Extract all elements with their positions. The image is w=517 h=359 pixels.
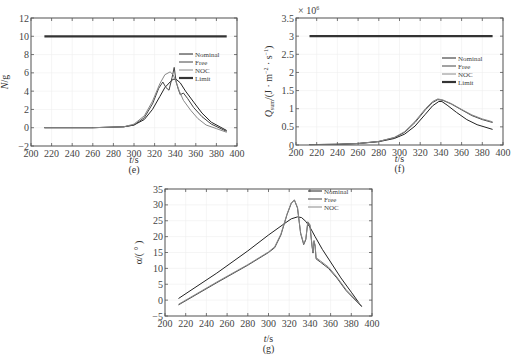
legend-label: Free [324,196,336,204]
y-tick-label: 10 [19,31,29,42]
x-tick-label: 380 [344,318,359,329]
x-tick-label: 260 [351,147,366,158]
y-tick-label: 1 [289,103,294,114]
y-tick-label: 12 [19,13,29,24]
legend-label: Limit [458,79,474,87]
x-tick-label: 400 [496,147,511,158]
x-tick-label: 280 [371,147,386,158]
y-tick-label: 6 [24,67,29,78]
legend-label: Nominal [195,51,220,59]
series-free-line [310,100,493,145]
chart-f-heat-flux: 20022024026028030032034036038040000.511.… [263,5,511,175]
x-tick-label: 400 [365,318,380,329]
figure-canvas: 200220240260280300320340360380400−202468… [0,0,517,359]
x-tick-label: 280 [106,148,121,159]
y-tick-label: −2 [18,141,29,152]
scale-multiplier-label: × 106 [298,5,319,16]
x-tick-label: 240 [330,147,345,158]
y-tick-label: 0 [158,295,163,306]
chart-e-load-factor: 200220240260280300320340360380400−202468… [0,13,245,177]
legend-label: Limit [195,75,211,83]
x-tick-label: 340 [433,147,448,158]
y-tick-label: 3.5 [282,13,295,24]
x-tick-label: 240 [199,318,214,329]
legend: NominalFreeNOC [308,188,349,212]
legend: NominalFreeNOCLimit [179,51,220,83]
y-axis-label: α/( ° ) [133,241,145,265]
y-tick-label: 30 [153,199,163,210]
legend-label: NOC [458,71,473,79]
x-tick-label: 340 [168,148,183,159]
series-nominal-line [179,217,362,307]
x-tick-label: 220 [44,148,59,159]
y-tick-label: 2.5 [282,49,295,60]
x-tick-label: 380 [475,147,490,158]
y-tick-label: 3 [289,31,294,42]
legend-label: Free [458,63,470,71]
x-tick-label: 320 [147,148,162,159]
x-tick-label: 320 [413,147,428,158]
x-tick-label: 320 [282,318,297,329]
x-tick-label: 400 [230,148,245,159]
x-tick-label: 360 [323,318,338,329]
x-tick-label: 220 [309,147,324,158]
figure-caption: (e) [128,164,139,176]
x-tick-label: 260 [220,318,235,329]
y-tick-label: 25 [153,215,163,226]
x-tick-label: 280 [240,318,255,329]
y-tick-label: 10 [153,263,163,274]
chart-g-angle-of-attack: 200220240260280300320340360380400−505101… [133,184,380,356]
figure-caption: (f) [395,163,405,175]
y-axis-label: N/g [0,75,10,90]
x-tick-label: 240 [65,148,80,159]
x-tick-label: 360 [454,147,469,158]
legend-label: NOC [195,67,210,75]
legend-label: Nominal [458,55,483,63]
figure-caption: (g) [263,343,275,355]
y-tick-label: 15 [153,247,163,258]
y-tick-label: 5 [158,279,163,290]
y-tick-label: 35 [153,184,163,195]
y-tick-label: 0 [289,140,294,151]
legend-label: Free [195,59,207,67]
y-tick-label: 1.5 [282,85,295,96]
y-tick-label: 2 [24,104,29,115]
y-tick-label: 4 [24,86,29,97]
x-tick-label: 360 [188,148,203,159]
legend: NominalFreeNOCLimit [442,55,483,87]
y-tick-label: 0.5 [282,121,295,132]
y-tick-label: 8 [24,49,29,60]
y-tick-label: 2 [289,67,294,78]
series-free-line [179,200,362,306]
x-tick-label: 380 [209,148,224,159]
x-tick-label: 260 [85,148,100,159]
x-tick-label: 300 [261,318,276,329]
y-tick-label: 0 [24,122,29,133]
x-tick-label: 340 [302,318,317,329]
y-tick-label: −5 [152,311,163,322]
legend-label: Nominal [324,188,349,196]
series-noc-line [310,99,493,145]
y-axis-label: Qsum/(J · m−2 · s−1) [263,46,275,118]
x-tick-label: 220 [178,318,193,329]
series-nominal-line [310,102,493,145]
y-tick-label: 20 [153,231,163,242]
legend-label: NOC [324,204,339,212]
